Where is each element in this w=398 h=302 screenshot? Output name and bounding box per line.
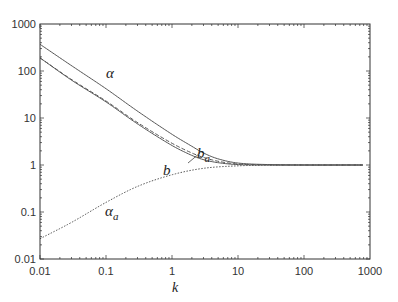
axis-ticks	[40, 24, 370, 259]
x-axis-label: k	[172, 280, 179, 295]
y-tick-label: 100	[18, 65, 36, 77]
x-tick-label: 1	[169, 265, 175, 277]
y-tick-label: 0.1	[21, 206, 36, 218]
y-tick-label: 10	[24, 112, 36, 124]
plot-frame	[40, 24, 370, 259]
curve-label-alpha-a: αa	[105, 203, 119, 222]
y-tick-label: 1	[30, 159, 36, 171]
curve-label-alpha: α	[106, 65, 115, 81]
y-tick-label: 1000	[12, 18, 36, 30]
curve-α_a	[40, 165, 363, 239]
x-tick-label: 1000	[358, 265, 382, 277]
x-tick-label: 0.1	[98, 265, 113, 277]
x-tick-label: 10	[232, 265, 244, 277]
log-log-chart: 0.010.11101001000 0.010.11101001000 α ba…	[0, 0, 398, 302]
x-tick-label: 100	[295, 265, 313, 277]
curve-label-b-a: ba	[197, 145, 211, 164]
curves	[40, 44, 363, 238]
x-tick-label: 0.01	[29, 265, 50, 277]
curve-label-b: b	[163, 162, 171, 178]
y-axis-tick-labels: 0.010.11101001000	[12, 18, 36, 265]
y-tick-label: 0.01	[15, 253, 36, 265]
x-axis-tick-labels: 0.010.11101001000	[29, 265, 382, 277]
